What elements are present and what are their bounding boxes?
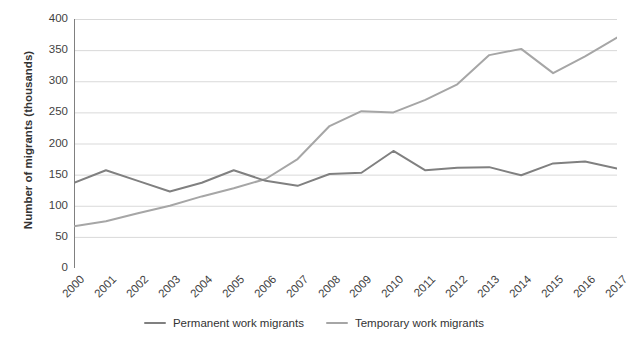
y-tick-label: 400 <box>34 13 68 24</box>
y-tick-label: 100 <box>34 200 68 211</box>
chart-legend: Permanent work migrantsTemporary work mi… <box>0 317 628 329</box>
y-tick-label: 250 <box>34 106 68 117</box>
series-line-temporary-work-migrants <box>74 38 617 227</box>
plot-area <box>74 19 617 268</box>
legend-item-temporary-work-migrants[interactable]: Temporary work migrants <box>326 317 484 329</box>
chart-title <box>0 0 628 3</box>
y-axis-tick-labels: 050100150200250300350400 <box>30 19 68 268</box>
legend-line-swatch-icon <box>144 322 166 325</box>
plot-svg <box>74 19 617 268</box>
legend-line-swatch-icon <box>326 322 348 325</box>
series-line-permanent-work-migrants <box>74 151 617 191</box>
legend-label: Permanent work migrants <box>173 317 304 329</box>
line-chart: Number of migrants (thousands) 050100150… <box>0 0 628 339</box>
y-tick-label: 0 <box>34 262 68 273</box>
legend-item-permanent-work-migrants[interactable]: Permanent work migrants <box>144 317 304 329</box>
y-tick-label: 350 <box>34 44 68 55</box>
legend-label: Temporary work migrants <box>355 317 484 329</box>
y-tick-label: 50 <box>34 231 68 242</box>
x-axis-tick-labels: 2000200120022003200420052006200720082009… <box>74 269 617 315</box>
y-tick-label: 300 <box>34 75 68 86</box>
y-tick-label: 150 <box>34 169 68 180</box>
y-tick-label: 200 <box>34 138 68 149</box>
